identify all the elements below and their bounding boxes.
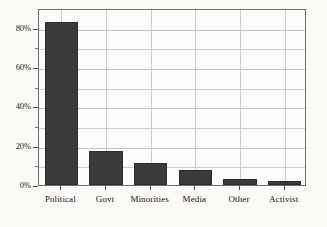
- y-tick-mark: [35, 166, 38, 167]
- gridline-vertical: [240, 10, 241, 185]
- bar-other: [223, 179, 256, 185]
- x-tick-label-govt: Govt: [96, 194, 114, 204]
- y-tick-label: 60%: [16, 62, 31, 72]
- bar-minorities: [134, 163, 167, 185]
- gridline-vertical: [285, 10, 286, 185]
- x-tick-mark: [150, 186, 151, 190]
- plot-area: [38, 9, 306, 186]
- x-tick-label-minorities: Minorities: [130, 194, 169, 204]
- y-tick-label: 40%: [16, 101, 31, 111]
- x-tick-label-media: Media: [183, 194, 207, 204]
- x-tick-mark: [194, 186, 195, 190]
- y-tick-label: 20%: [16, 141, 31, 151]
- gridline-vertical: [151, 10, 152, 185]
- y-tick-mark: [35, 88, 38, 89]
- bar-activist: [268, 181, 301, 185]
- x-tick-label-political: Political: [45, 194, 76, 204]
- gridline-horizontal-minor: [39, 89, 305, 90]
- y-tick-mark: [33, 107, 38, 108]
- bar-govt: [89, 151, 122, 185]
- gridline-horizontal-minor: [39, 49, 305, 50]
- gridline-horizontal-major: [39, 148, 305, 149]
- bar-political: [45, 22, 78, 185]
- y-tick-label: 80%: [16, 23, 31, 33]
- x-tick-label-other: Other: [229, 194, 250, 204]
- gridline-horizontal-major: [39, 69, 305, 70]
- x-tick-mark: [60, 186, 61, 190]
- y-tick-mark: [33, 147, 38, 148]
- gridline-horizontal-minor: [39, 128, 305, 129]
- y-tick-mark: [35, 48, 38, 49]
- bar-media: [179, 170, 212, 185]
- gridline-vertical: [195, 10, 196, 185]
- bar-chart-figure: 0%20%40%60%80%PoliticalGovtMinoritiesMed…: [0, 0, 327, 227]
- y-tick-mark: [33, 29, 38, 30]
- y-tick-mark: [33, 68, 38, 69]
- y-tick-mark: [33, 186, 38, 187]
- y-tick-label: 0%: [20, 180, 31, 190]
- gridline-horizontal-major: [39, 108, 305, 109]
- gridline-horizontal-major: [39, 30, 305, 31]
- y-tick-mark: [35, 127, 38, 128]
- x-tick-mark: [284, 186, 285, 190]
- x-tick-mark: [239, 186, 240, 190]
- gridline-horizontal-minor: [39, 167, 305, 168]
- x-tick-mark: [105, 186, 106, 190]
- x-tick-label-activist: Activist: [269, 194, 298, 204]
